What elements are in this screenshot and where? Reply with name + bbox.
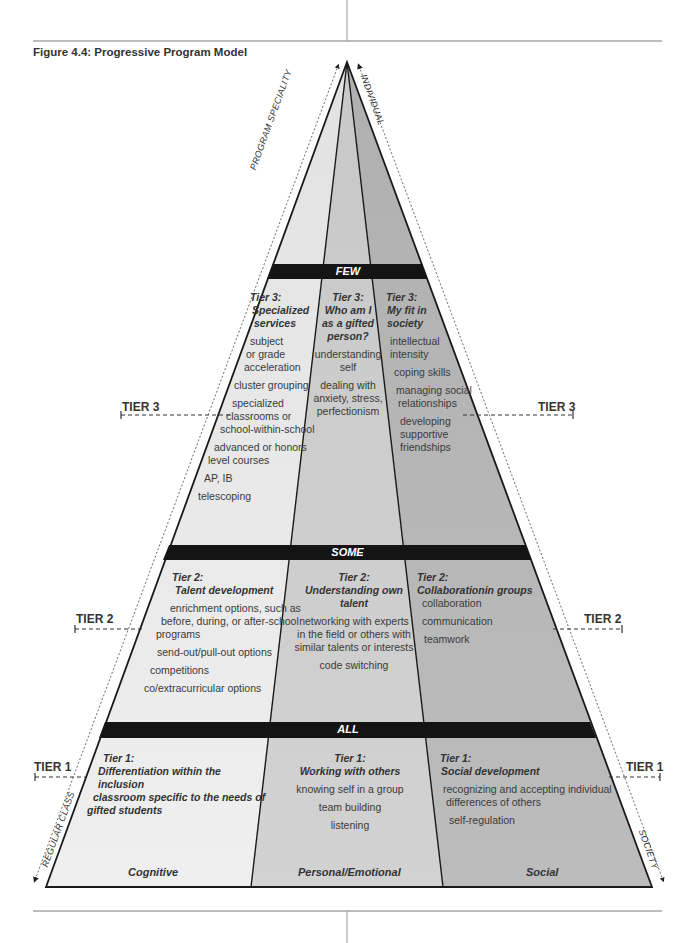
tier3-right-label: TIER 3 (538, 400, 575, 414)
list-item: in the field or others with (292, 628, 416, 641)
list-item: cluster grouping (208, 379, 326, 392)
cell-heading: Differentiation within the inclusion (86, 765, 266, 791)
cell-heading: Who am I (312, 304, 384, 317)
list-item: developing (386, 415, 486, 428)
tier1-left-label: TIER 1 (34, 760, 71, 774)
tier1-right-label: TIER 1 (626, 760, 663, 774)
list-item: differences of others (440, 796, 620, 809)
list-item: send-out/pull-out options (142, 646, 302, 659)
cell-heading: Tier 2: (142, 571, 302, 584)
list-item: recognizing and accepting individual (440, 783, 620, 796)
list-item: school-within-school (208, 423, 326, 436)
list-item: co/extracurricular options (142, 682, 302, 695)
tier2-right-label: TIER 2 (584, 612, 621, 626)
list-item: understanding (312, 348, 384, 361)
list-item: team building (272, 801, 428, 814)
tier2-social-cell: Tier 2: Collaborationin groups collabora… (417, 571, 537, 646)
cell-heading: Tier 1: (440, 752, 620, 765)
cell-heading: Tier 1: (272, 752, 428, 765)
cell-heading: Specialized (208, 304, 326, 317)
cell-heading: Tier 2: (292, 571, 416, 584)
list-item: listening (272, 819, 428, 832)
list-item: perfectionism (312, 405, 384, 418)
cell-heading: classroom specific to the needs of (86, 791, 266, 804)
cell-heading: Tier 3: (312, 291, 384, 304)
list-item: self (312, 361, 384, 374)
list-item: enrichment options, such as (142, 602, 302, 615)
list-item: networking with experts (292, 615, 416, 628)
list-item: before, during, or after-school (142, 615, 302, 628)
list-item: knowing self in a group (272, 783, 428, 796)
list-item: friendships (386, 441, 486, 454)
list-item: programs (142, 628, 302, 641)
list-item: collaboration (417, 597, 537, 610)
tier3-left-label: TIER 3 (122, 400, 159, 414)
cell-heading: person? (312, 330, 384, 343)
cell-heading: Working with others (272, 765, 428, 778)
list-item: managing social (386, 384, 486, 397)
cell-heading: Collaborationin groups (417, 584, 537, 597)
list-item: telescoping (198, 490, 326, 503)
list-item: AP, IB (204, 472, 326, 485)
list-item: advanced or honors (208, 441, 326, 454)
band-label-few: FEW (271, 265, 425, 277)
list-item: self-regulation (440, 814, 620, 827)
tier1-personal-cell: Tier 1: Working with others knowing self… (272, 752, 428, 832)
list-item: or grade (208, 348, 326, 361)
cell-heading: as a gifted (312, 317, 384, 330)
cell-heading: My fit in (386, 304, 486, 317)
list-item: teamwork (417, 633, 537, 646)
cell-heading: Tier 3: (386, 291, 486, 304)
tier1-cognitive-cell: Tier 1: Differentiation within the inclu… (86, 752, 266, 817)
list-item: anxiety, stress, (312, 392, 384, 405)
tier2-personal-cell: Tier 2: Understanding own talent network… (292, 571, 416, 672)
cell-heading: Tier 2: (417, 571, 537, 584)
domain-label-social: Social (526, 866, 558, 878)
tier3-personal-cell: Tier 3: Who am I as a gifted person? und… (312, 291, 384, 418)
tier2-cognitive-cell: Tier 2: Talent development enrichment op… (142, 571, 302, 695)
band-label-all: ALL (103, 723, 593, 735)
list-item: specialized (208, 397, 326, 410)
list-item: intensity (386, 348, 486, 361)
list-item: relationships (386, 397, 486, 410)
band-label-some: SOME (167, 546, 528, 558)
list-item: intellectual (386, 335, 486, 348)
list-item: competitions (142, 664, 302, 677)
list-item: classrooms or (208, 410, 326, 423)
cell-heading: Social development (440, 765, 620, 778)
tier3-social-cell: Tier 3: My fit in society intellectual i… (386, 291, 486, 454)
list-item: communication (417, 615, 537, 628)
list-item: level courses (208, 454, 326, 467)
domain-label-cognitive: Cognitive (128, 866, 178, 878)
list-item: supportive (386, 428, 486, 441)
list-item: acceleration (208, 361, 326, 374)
list-item: similar talents or interests (292, 641, 416, 654)
tier3-cognitive-cell: Tier 3: Specialized services subject or … (208, 291, 326, 503)
tier1-social-cell: Tier 1: Social development recognizing a… (440, 752, 620, 827)
cell-heading: services (208, 317, 326, 330)
tier2-left-label: TIER 2 (76, 612, 113, 626)
list-item: dealing with (312, 379, 384, 392)
cell-heading: Understanding own talent (292, 584, 416, 610)
list-item: code switching (292, 659, 416, 672)
cell-heading: society (386, 317, 486, 330)
cell-heading: Talent development (142, 584, 302, 597)
cell-heading: gifted students (86, 804, 266, 817)
cell-heading: Tier 1: (86, 752, 266, 765)
list-item: coping skills (386, 366, 486, 379)
cell-heading: Tier 3: (208, 291, 326, 304)
list-item: subject (208, 335, 326, 348)
domain-label-personal-emotional: Personal/Emotional (298, 866, 401, 878)
